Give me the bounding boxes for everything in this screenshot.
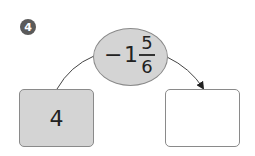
minus-sign: − xyxy=(104,44,122,66)
whole-number: 1 xyxy=(124,44,138,66)
arc-left xyxy=(57,56,94,89)
fraction: 5 6 xyxy=(139,34,155,76)
arrow-right xyxy=(167,57,203,88)
answer-box[interactable] xyxy=(165,89,240,147)
denominator: 6 xyxy=(139,58,155,76)
input-box: 4 xyxy=(19,89,94,147)
numerator: 5 xyxy=(139,34,155,52)
